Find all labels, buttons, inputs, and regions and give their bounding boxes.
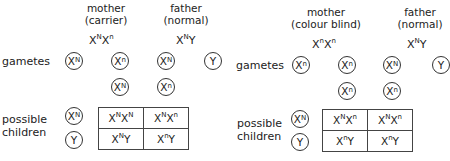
left-father-genotype: XNY bbox=[176, 34, 196, 47]
right-punnett-square: XNXn XNXn XnY XnY bbox=[322, 109, 413, 152]
punnett-cell: XnY bbox=[323, 131, 368, 152]
punnett-cell: XNXN bbox=[99, 108, 144, 129]
gamete-circle: Xn bbox=[111, 52, 129, 70]
gamete-circle: XN bbox=[383, 56, 401, 74]
right-children-label: possiblechildren bbox=[237, 117, 282, 143]
column-header-circle: Xn bbox=[157, 78, 175, 96]
right-mother-genotype: XnXn bbox=[312, 38, 336, 51]
right-gametes-label: gametes bbox=[236, 59, 284, 72]
punnett-cell: XnY bbox=[144, 129, 189, 150]
right-mother-label: mother (colour blind) bbox=[286, 6, 366, 30]
punnett-cell: XnY bbox=[368, 131, 413, 152]
father-label: father bbox=[158, 2, 214, 14]
right-father-genotype: XNY bbox=[407, 38, 427, 51]
father-status: (normal) bbox=[158, 14, 214, 26]
mother-label: mother bbox=[76, 2, 136, 14]
punnett-cell: XNXn bbox=[368, 110, 413, 131]
left-mother-genotype: XNXn bbox=[89, 34, 114, 47]
column-header-circle: Xn bbox=[383, 82, 401, 100]
gamete-circle: XN bbox=[65, 52, 83, 70]
gamete-circle: Xn bbox=[338, 56, 356, 74]
father-label: father bbox=[392, 6, 448, 18]
column-header-circle: Xn bbox=[338, 82, 356, 100]
gamete-circle: Xn bbox=[292, 56, 310, 74]
gamete-circle: Y bbox=[204, 52, 222, 70]
punnett-cell: XNXn bbox=[144, 108, 189, 129]
punnett-cell: XNXn bbox=[323, 110, 368, 131]
left-gametes-label: gametes bbox=[2, 55, 50, 68]
punnett-cell: XNY bbox=[99, 129, 144, 150]
row-header-circle: XN bbox=[291, 110, 309, 128]
left-punnett-square: XNXN XNXn XNY XnY bbox=[98, 107, 189, 150]
mother-label: mother bbox=[286, 6, 366, 18]
row-header-circle: XN bbox=[65, 107, 83, 125]
right-father-label: father (normal) bbox=[392, 6, 448, 30]
left-children-label: possiblechildren bbox=[2, 113, 47, 139]
mother-status: (carrier) bbox=[76, 14, 136, 26]
gamete-circle: Y bbox=[432, 56, 450, 74]
father-status: (normal) bbox=[392, 18, 448, 30]
row-header-circle: Y bbox=[291, 133, 309, 151]
mother-status: (colour blind) bbox=[286, 18, 366, 30]
left-father-label: father (normal) bbox=[158, 2, 214, 26]
column-header-circle: XN bbox=[111, 78, 129, 96]
left-mother-label: mother (carrier) bbox=[76, 2, 136, 26]
row-header-circle: Y bbox=[65, 131, 83, 149]
gamete-circle: XN bbox=[157, 52, 175, 70]
